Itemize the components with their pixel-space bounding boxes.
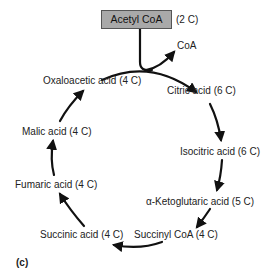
arrow-malic-oxaloacetic — [60, 91, 83, 121]
acetyl-entry-line — [140, 29, 152, 70]
node-ketoglutaric: α-Ketoglutaric acid (5 C) — [146, 196, 254, 208]
arrow-succinic-fumaric — [60, 194, 84, 226]
node-oxaloacetic: Oxaloacetic acid (4 C) — [43, 75, 141, 87]
arrow-succinyl-succinic — [114, 242, 162, 247]
arrow-keto-succinyl — [197, 209, 210, 227]
node-citric: Citric acid (6 C) — [167, 85, 236, 97]
acetyl-coa-box: Acetyl CoA — [101, 10, 172, 29]
node-succinic: Succinic acid (4 C) — [40, 229, 123, 241]
acetyl-coa-carbons: (2 C) — [176, 14, 198, 26]
node-isocitric: Isocitric acid (6 C) — [180, 146, 260, 158]
panel-label: (c) — [16, 257, 28, 269]
coa-release-arrow — [146, 52, 174, 70]
node-succinyl-coa: Succinyl CoA (4 C) — [134, 229, 218, 241]
arrow-isocitric-keto — [217, 160, 222, 190]
arrow-fumaric-malic — [52, 141, 54, 175]
coa-label: CoA — [177, 40, 196, 52]
node-fumaric: Fumaric acid (4 C) — [15, 179, 97, 191]
arrow-citric-isocitric — [210, 104, 221, 140]
node-malic: Malic acid (4 C) — [22, 126, 91, 138]
